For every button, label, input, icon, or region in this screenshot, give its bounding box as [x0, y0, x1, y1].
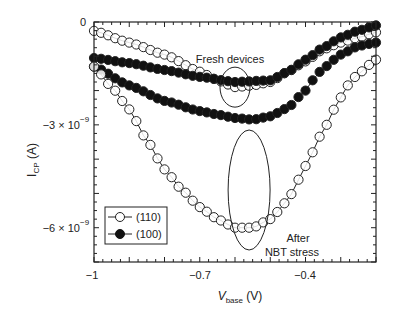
data-point — [118, 96, 127, 105]
x-axis-label-sub: base — [226, 296, 244, 305]
y-tick-label-1: −3 × 10 — [43, 119, 80, 131]
y-tick-1-base: −3 × 10 — [43, 119, 80, 131]
data-point — [329, 105, 338, 114]
annotation-fresh-devices: Fresh devices — [196, 53, 265, 65]
data-point — [287, 190, 296, 199]
data-point — [273, 207, 282, 216]
legend-110-marker — [116, 213, 125, 222]
data-point — [301, 161, 310, 170]
data-point — [322, 120, 331, 129]
data-point — [336, 93, 345, 102]
data-point — [287, 100, 296, 109]
data-point — [280, 199, 289, 208]
x-axis-label: Vbase (V) — [218, 289, 263, 305]
data-point — [315, 132, 324, 141]
legend-100-marker — [116, 230, 125, 239]
y-tick-2-exp: −9 — [80, 218, 90, 227]
annotation-nbt-stress: NBT stress — [265, 246, 320, 258]
data-point — [153, 154, 162, 163]
y-tick-label-2: −6 × 10 — [43, 222, 80, 234]
annotation-after: After — [286, 232, 310, 244]
y-axis-label-sub: CP — [32, 162, 41, 173]
x-tick-label-0: −1 — [86, 269, 99, 281]
data-point — [308, 76, 317, 85]
data-point — [139, 131, 148, 140]
data-point — [104, 79, 113, 88]
x-tick-label-2: −0.4 — [294, 269, 316, 281]
data-point — [160, 165, 169, 174]
data-point — [308, 148, 317, 157]
y-tick-2-base: −6 × 10 — [43, 222, 80, 234]
data-point — [294, 175, 303, 184]
y-tick-1-exp: −9 — [80, 115, 90, 124]
data-point — [125, 105, 134, 114]
legend-100-label: (100) — [136, 228, 162, 240]
y-axis-label-unit: (A) — [25, 143, 39, 162]
legend: (110) (100) — [105, 207, 167, 244]
data-point — [181, 188, 190, 197]
y-tick-label-0: 0 — [80, 16, 86, 28]
data-point — [111, 86, 120, 95]
data-point — [97, 70, 106, 79]
iCP-vs-vbase-chart: 0 −3 × 10 −9 −6 × 10 −9 −1 −0.7 −0.4 Vba… — [0, 0, 397, 317]
data-point — [343, 81, 352, 90]
data-point — [301, 86, 310, 95]
legend-110-label: (110) — [136, 211, 161, 223]
data-point — [146, 140, 155, 149]
data-point — [132, 117, 141, 126]
x-axis-label-unit: (V) — [243, 289, 262, 303]
x-tick-label-1: −0.7 — [189, 269, 211, 281]
data-point — [167, 173, 176, 182]
y-axis-label: ICP (A) — [25, 143, 41, 177]
